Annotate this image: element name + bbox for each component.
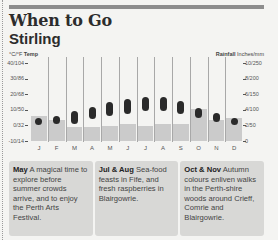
- rainfall-bar: [173, 124, 189, 141]
- temp-range-marker: [106, 102, 113, 116]
- rainfall-unit-label: Rainfall Inches/mm: [216, 51, 264, 57]
- rainfall-bar: [84, 127, 100, 141]
- temp-axis-label: 0/32: [2, 122, 24, 128]
- location-subtitle: Stirling: [9, 30, 61, 47]
- temp-range-marker: [195, 108, 202, 117]
- rainfall-unit-suffix: Inches/mm: [237, 51, 264, 57]
- month-label: F: [51, 145, 63, 151]
- temp-range-marker: [124, 99, 131, 114]
- rainfall-axis-tick: [243, 125, 246, 126]
- highlights: May A magical time to explore before sum…: [9, 161, 264, 236]
- temp-axis-tick: [25, 63, 28, 64]
- temp-range-marker: [160, 97, 167, 111]
- rainfall-bar: [138, 126, 154, 141]
- temp-range-marker: [231, 118, 238, 125]
- rainfall-axis-tick: [243, 94, 246, 95]
- column-separator: [225, 57, 226, 142]
- temp-axis-label: 40/104: [2, 60, 24, 66]
- page-edge: [2, 0, 3, 240]
- temp-unit-label: °C/°F Temp: [9, 51, 38, 57]
- top-rule: [9, 5, 264, 9]
- highlight-lead: Jul & Aug: [99, 165, 134, 174]
- temp-axis-tick: [25, 141, 28, 142]
- temp-axis-label: 30/86: [2, 75, 24, 81]
- temp-range-marker: [213, 113, 220, 122]
- temp-axis-tick: [25, 79, 28, 80]
- rainfall-axis-tick: [243, 141, 246, 142]
- temp-range-marker: [89, 107, 96, 119]
- temp-unit-prefix: °C/°F: [9, 51, 22, 57]
- month-label: A: [157, 145, 169, 151]
- temp-range-marker: [142, 97, 149, 111]
- temp-axis-label: 10/50: [2, 106, 24, 112]
- column-separator: [154, 57, 155, 142]
- temp-range-marker: [71, 111, 78, 123]
- column-separator: [66, 57, 67, 142]
- rainfall-bar: [102, 126, 118, 141]
- rainfall-axis-label: 6/150: [245, 91, 259, 97]
- rainfall-axis-label: 10/250: [245, 60, 262, 66]
- month-label: S: [175, 145, 187, 151]
- temp-axis-tick: [25, 110, 28, 111]
- highlight-lead: Oct & Nov: [184, 165, 221, 174]
- column-separator: [172, 57, 173, 142]
- month-label: O: [193, 145, 205, 151]
- rainfall-axis-tick: [243, 110, 246, 111]
- rainfall-axis-label: 4/100: [245, 106, 259, 112]
- month-label: J: [139, 145, 151, 151]
- temp-axis-tick: [25, 94, 28, 95]
- temp-axis-tick: [25, 125, 28, 126]
- rainfall-axis-tick: [243, 79, 246, 80]
- month-label: J: [122, 145, 134, 151]
- temp-range-marker: [53, 116, 60, 124]
- temp-range-marker: [177, 101, 184, 115]
- highlight-jul-aug: Jul & Aug Sea-food feasts in Fife, and f…: [95, 161, 179, 236]
- rainfall-bar: [209, 120, 225, 141]
- rainfall-axis-tick: [243, 63, 246, 64]
- temp-axis-label: -10/14: [2, 138, 24, 144]
- column-separator: [119, 57, 120, 142]
- column-separator: [190, 57, 191, 142]
- month-label: M: [104, 145, 116, 151]
- month-label: M: [68, 145, 80, 151]
- month-label: N: [210, 145, 222, 151]
- column-separator: [83, 57, 84, 142]
- month-label: J: [33, 145, 45, 151]
- rainfall-axis-label: 8/200: [245, 75, 259, 81]
- rainfall-bar: [155, 124, 171, 141]
- month-label: D: [228, 145, 240, 151]
- highlight-lead: May: [13, 165, 28, 174]
- rainfall-bar: [120, 124, 136, 141]
- highlight-may: May A magical time to explore before sum…: [9, 161, 93, 236]
- month-label: A: [86, 145, 98, 151]
- column-separator: [48, 57, 49, 142]
- page-title: When to Go: [9, 11, 112, 30]
- rainfall-axis-label: 2/50: [245, 122, 256, 128]
- column-separator: [137, 57, 138, 142]
- temp-unit-title: Temp: [24, 51, 38, 57]
- column-separator: [101, 57, 102, 142]
- column-separator: [208, 57, 209, 142]
- rainfall-bar: [67, 127, 83, 141]
- temp-axis-label: 20/68: [2, 91, 24, 97]
- highlight-oct-nov: Oct & Nov Autumn colours enliven walks i…: [180, 161, 264, 236]
